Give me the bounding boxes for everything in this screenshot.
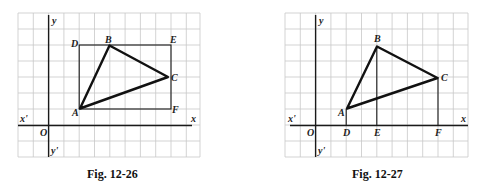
point-B-label: B (373, 33, 381, 44)
origin-label: O (40, 127, 47, 138)
figure-12-27: y x' x O y' A B C D E F Fig. 12-27 (285, 13, 468, 181)
point-E-label: E (373, 127, 381, 138)
x-neg-axis-label: x' (19, 113, 28, 124)
point-E-label: E (169, 34, 177, 45)
x-axis-label: x (460, 113, 466, 124)
point-F-label: F (171, 104, 179, 115)
y-neg-axis-label: y' (50, 145, 58, 156)
point-A-label: A (337, 107, 345, 118)
point-C-label: C (441, 72, 448, 83)
y-axis-label: y (318, 15, 324, 26)
origin-label: O (307, 127, 314, 138)
figures-canvas: y x' x O y' A B C D E F Fig. 12-26 (0, 0, 490, 187)
x-axis-label: x (190, 113, 196, 124)
figure-caption: Fig. 12-26 (87, 167, 138, 181)
x-neg-axis-label: x' (287, 113, 296, 124)
point-D-label: D (342, 127, 350, 138)
point-C-label: C (171, 72, 178, 83)
y-axis-label: y (51, 15, 57, 26)
figure-caption: Fig. 12-27 (352, 167, 403, 181)
y-neg-axis-label: y' (317, 145, 325, 156)
point-F-label: F (434, 127, 442, 138)
point-A-label: A (71, 107, 79, 118)
figure-12-26: y x' x O y' A B C D E F Fig. 12-26 (18, 13, 200, 181)
point-D-label: D (70, 38, 78, 49)
point-B-label: B (104, 34, 112, 45)
